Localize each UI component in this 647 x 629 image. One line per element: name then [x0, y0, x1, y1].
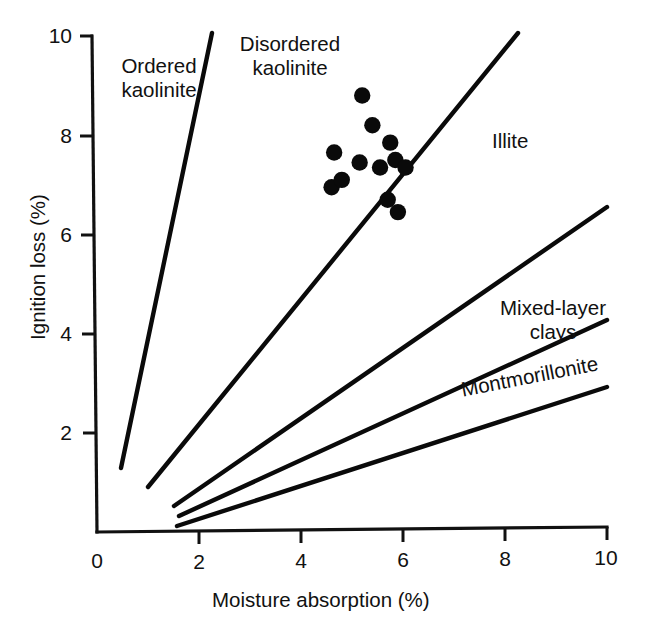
- y-tick-label-8: 8: [38, 124, 72, 148]
- data-point: [334, 172, 350, 188]
- data-point: [397, 159, 413, 175]
- x-axis-line: [97, 527, 607, 532]
- data-point: [326, 144, 342, 160]
- data-point: [372, 159, 388, 175]
- region-label-disordered-kaolinite: Disordered kaolinite: [225, 32, 355, 80]
- data-point: [351, 154, 367, 170]
- y-axis-line: [92, 36, 97, 532]
- data-point: [364, 117, 380, 133]
- data-point: [354, 87, 370, 103]
- region-label-mixed-layer-clays: Mixed-layer clays: [488, 296, 618, 344]
- y-tick-label-2: 2: [38, 421, 72, 445]
- x-tick-label-6: 6: [389, 548, 417, 572]
- region-label-ordered-kaolinite: Ordered kaolinite: [104, 54, 214, 102]
- mixed-layer-montmorillonite-boundary: [179, 320, 607, 516]
- x-axis-title: Moisture absorption (%): [212, 588, 430, 612]
- data-point: [390, 204, 406, 220]
- montmorillonite-lower-boundary: [177, 387, 607, 526]
- y-tick-label-10: 10: [38, 24, 72, 48]
- y-axis-title: Ignition loss (%): [26, 167, 50, 367]
- x-tick-label-2: 2: [185, 550, 213, 574]
- region-label-illite: Illite: [492, 129, 572, 153]
- x-tick-label-8: 8: [491, 547, 519, 571]
- chart-figure: 10 8 6 4 2 0 2 4 6 8 10 Moisture absorpt…: [0, 0, 647, 629]
- x-tick-label-10: 10: [589, 546, 623, 570]
- data-point: [382, 134, 398, 150]
- x-tick-label-4: 4: [287, 549, 315, 573]
- illite-mixed-layer-boundary: [174, 207, 607, 506]
- scatter-points: [323, 87, 413, 220]
- boundary-lines: [121, 33, 607, 526]
- x-tick-label-0: 0: [83, 549, 111, 573]
